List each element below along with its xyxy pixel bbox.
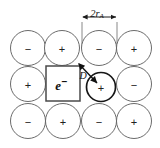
dimension-label-subscript: A <box>99 12 105 20</box>
lattice-ion: + <box>45 31 80 66</box>
ion-charge-positive: + <box>98 82 104 94</box>
lattice-ion: − <box>82 104 117 139</box>
ion-charge-negative: − <box>96 43 102 55</box>
f-center-lattice-figure: 2rA −+−+++−−+−+ e− D <box>0 0 160 148</box>
electron-vacancy-group: e− <box>46 66 80 101</box>
ion-charge-positive: + <box>59 43 65 55</box>
ion-charge-positive: + <box>25 79 31 91</box>
ion-charge-positive: + <box>60 116 66 128</box>
lattice-diagram-canvas: 2rA −+−+++−−+−+ e− D <box>0 0 160 148</box>
ion-lattice-layer: −+−+++−−+−+ <box>11 31 152 139</box>
ion-charge-negative: − <box>25 43 31 55</box>
ion-charge-negative: − <box>96 116 102 128</box>
radius-dimension-label: 2rA <box>90 8 104 20</box>
lattice-ion: − <box>117 67 152 102</box>
ion-charge-positive: + <box>131 43 137 55</box>
lattice-ion: − <box>82 31 117 66</box>
lattice-ion: + <box>11 67 46 102</box>
ion-charge-positive: + <box>131 116 137 128</box>
svg-text:2rA: 2rA <box>90 8 104 20</box>
ion-charge-negative: − <box>131 79 137 91</box>
lattice-ion: + <box>46 104 81 139</box>
electron-charge-superscript: − <box>61 75 67 86</box>
lattice-ion: − <box>11 104 46 139</box>
lattice-ion: + <box>117 104 152 139</box>
distance-label: D <box>78 70 87 81</box>
ion-charge-negative: − <box>25 116 31 128</box>
lattice-ion: − <box>11 31 46 66</box>
lattice-ion: + <box>117 31 152 66</box>
